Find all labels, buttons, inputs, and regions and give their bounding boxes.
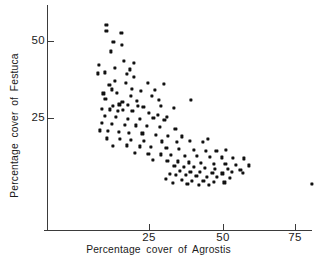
data-point (125, 73, 128, 76)
data-point (119, 137, 122, 140)
data-point (159, 153, 162, 156)
data-point (136, 104, 139, 107)
data-point (186, 182, 189, 185)
data-point (211, 171, 214, 174)
data-point (158, 126, 161, 129)
data-point (207, 184, 210, 187)
data-point (148, 111, 151, 114)
data-point (160, 140, 163, 143)
data-point (120, 44, 123, 47)
data-point (189, 98, 192, 101)
data-point (127, 131, 130, 134)
data-point (205, 175, 208, 178)
data-point (215, 150, 218, 153)
data-point (129, 94, 132, 97)
data-point (224, 148, 227, 151)
y-tick-50 (48, 41, 54, 42)
data-point (135, 99, 138, 102)
x-tick-75 (295, 224, 296, 230)
x-axis-line (44, 230, 312, 231)
data-point (213, 167, 216, 170)
data-point (115, 91, 118, 94)
data-point (113, 67, 116, 70)
data-point (110, 50, 113, 53)
data-point (202, 180, 205, 183)
data-point (165, 147, 168, 150)
data-point (195, 155, 198, 158)
data-point (231, 170, 234, 173)
data-point (178, 147, 181, 150)
data-point (113, 79, 116, 82)
data-point (183, 165, 186, 168)
data-point (112, 144, 115, 147)
y-tick-25 (48, 118, 54, 119)
data-point (159, 105, 162, 108)
data-point (128, 68, 131, 71)
data-point (220, 156, 223, 159)
data-point (171, 182, 174, 185)
data-point (204, 149, 207, 152)
data-point (102, 92, 105, 95)
data-point (221, 172, 224, 175)
data-point (117, 109, 120, 112)
data-point (178, 169, 181, 172)
data-point (163, 118, 166, 121)
data-point (101, 107, 104, 110)
data-point (112, 40, 115, 43)
data-point (132, 62, 135, 65)
data-point (146, 81, 149, 84)
x-tick-label-50: 50 (216, 231, 229, 243)
data-point (208, 155, 211, 158)
data-point (173, 164, 176, 167)
data-point (104, 97, 107, 100)
data-point (105, 24, 108, 27)
data-point (123, 123, 126, 126)
data-point (147, 152, 150, 155)
x-tick-50 (223, 224, 224, 230)
data-point (133, 151, 136, 154)
data-point (165, 115, 168, 118)
y-tick-label-50: 50 (32, 34, 45, 46)
data-point (193, 148, 196, 151)
data-point (231, 156, 234, 159)
data-point (226, 168, 229, 171)
data-point (180, 135, 183, 138)
data-point (174, 127, 177, 130)
data-point (157, 99, 160, 102)
x-tick-label-75: 75 (288, 231, 301, 243)
data-point (117, 131, 120, 134)
data-point (121, 108, 124, 111)
data-point (215, 176, 218, 179)
data-point (167, 134, 170, 137)
data-point (103, 71, 106, 74)
data-point (187, 161, 190, 164)
data-point (142, 105, 145, 108)
data-point (118, 103, 121, 106)
data-point (184, 174, 187, 177)
x-axis-title: Percentage cover of Agrostis (0, 244, 317, 255)
y-tick-label-25: 25 (32, 111, 45, 123)
data-point (197, 183, 200, 186)
data-point (103, 114, 106, 117)
data-point (156, 113, 159, 116)
data-point (99, 129, 102, 132)
data-point (131, 110, 134, 113)
data-point (100, 121, 103, 124)
data-point (188, 139, 191, 142)
data-point (134, 124, 137, 127)
data-point (154, 89, 157, 92)
data-point (234, 163, 237, 166)
data-point (105, 137, 108, 140)
data-point (127, 117, 130, 120)
data-point (239, 168, 242, 171)
x-tick-25 (149, 224, 150, 230)
data-point (150, 95, 153, 98)
data-point (224, 163, 227, 166)
data-point (212, 162, 215, 165)
data-point (124, 81, 127, 84)
y-axis-title: Percentage cover of Festuca (9, 26, 20, 226)
data-point (105, 30, 108, 33)
data-point (201, 140, 204, 143)
data-point (223, 181, 226, 184)
data-point (126, 103, 129, 106)
